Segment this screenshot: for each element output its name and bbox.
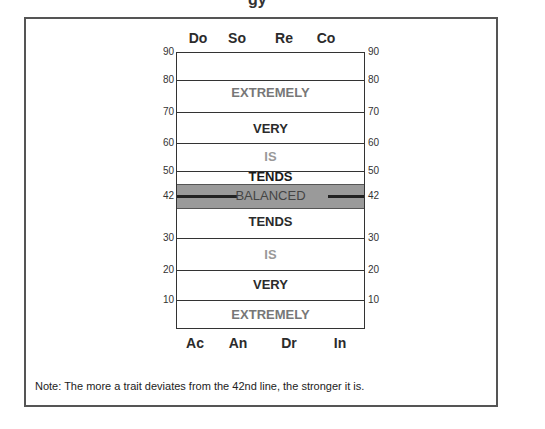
- gridline-70: [176, 112, 365, 113]
- zone-very-lower: VERY: [177, 277, 364, 292]
- tick-left-60: 60: [150, 137, 174, 148]
- tick-right-60: 60: [368, 137, 379, 148]
- scale-chart: EXTREMELY VERY IS TENDS BALANCED TENDS I…: [176, 52, 365, 329]
- trait-label-do: Do: [178, 30, 218, 46]
- trait-label-an: An: [218, 335, 258, 351]
- zone-is-lower: IS: [177, 247, 364, 262]
- trait-label-in: In: [320, 335, 360, 351]
- zone-tends-upper: TENDS: [177, 169, 364, 184]
- tick-left-70: 70: [150, 106, 174, 117]
- gridline-30: [176, 238, 365, 239]
- tick-right-80: 80: [368, 74, 379, 85]
- tick-right-50: 50: [368, 165, 379, 176]
- gridline-80: [176, 80, 365, 81]
- gridline-20: [176, 270, 365, 271]
- tick-right-90: 90: [368, 46, 379, 57]
- gridline-60: [176, 143, 365, 144]
- tick-left-10: 10: [150, 294, 174, 305]
- tick-right-20: 20: [368, 264, 379, 275]
- tick-right-70: 70: [368, 106, 379, 117]
- zone-is-upper: IS: [177, 149, 364, 164]
- trait-label-so: So: [217, 30, 257, 46]
- tick-left-42: 42: [150, 190, 174, 201]
- tick-left-20: 20: [150, 264, 174, 275]
- gridline-10: [176, 300, 365, 301]
- tick-left-90: 90: [150, 46, 174, 57]
- tick-left-30: 30: [150, 232, 174, 243]
- tick-left-80: 80: [150, 74, 174, 85]
- zone-extremely-upper: EXTREMELY: [177, 85, 364, 100]
- zone-very-upper: VERY: [177, 121, 364, 136]
- trait-label-ac: Ac: [175, 335, 215, 351]
- tick-right-42: 42: [368, 190, 379, 201]
- title-fragment: gy: [248, 0, 267, 9]
- tick-right-10: 10: [368, 294, 379, 305]
- trait-label-co: Co: [306, 30, 346, 46]
- footnote: Note: The more a trait deviates from the…: [35, 380, 364, 392]
- zone-balanced: BALANCED: [177, 188, 364, 203]
- zone-tends-lower: TENDS: [177, 214, 364, 229]
- tick-left-50: 50: [150, 165, 174, 176]
- tick-right-30: 30: [368, 232, 379, 243]
- trait-label-re: Re: [264, 30, 304, 46]
- zone-extremely-lower: EXTREMELY: [177, 307, 364, 322]
- trait-label-dr: Dr: [269, 335, 309, 351]
